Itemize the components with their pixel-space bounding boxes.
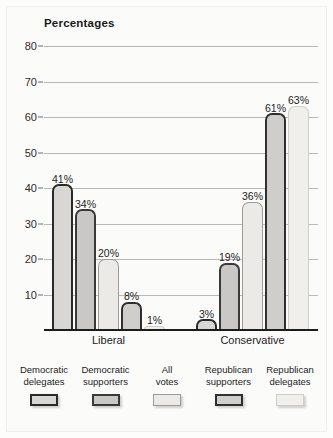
bar-value-label: 34% [75, 199, 96, 210]
legend-label: Republican [266, 364, 314, 376]
legend-label: votes [156, 376, 179, 388]
chart-figure: Percentages 1020304050607080 41%34%20%8%… [0, 0, 333, 438]
legend-swatch [30, 394, 58, 406]
y-axis-tick [38, 152, 43, 153]
bar-value-label: 19% [219, 252, 240, 263]
bar: 8% [121, 302, 142, 330]
bar: 36% [242, 202, 263, 330]
x-axis-group-label: Conservative [220, 334, 284, 346]
y-axis-tick [38, 81, 43, 82]
legend-swatch [153, 394, 181, 406]
legend-label: All [162, 364, 173, 376]
legend-label: delegates [269, 376, 310, 388]
bar-value-label: 20% [98, 248, 119, 259]
bar-value-label: 63% [288, 95, 309, 106]
legend-label: supporters [206, 376, 251, 388]
gridline [44, 82, 318, 83]
legend-item: Allvotes [137, 364, 197, 406]
x-axis-group-label: Liberal [92, 334, 125, 346]
y-axis-tick-label: 70 [25, 76, 37, 87]
legend-label: delegates [23, 376, 64, 388]
legend-label: Democratic [81, 364, 129, 376]
legend-label: supporters [83, 376, 128, 388]
bar-value-label: 3% [199, 309, 214, 320]
legend-label: Democratic [20, 364, 68, 376]
bar: 41% [52, 184, 73, 330]
legend-swatch [215, 394, 243, 406]
legend-swatch [92, 394, 120, 406]
y-axis-tick-label: 20 [25, 254, 37, 265]
y-axis-tick [38, 188, 43, 189]
y-axis-tick [38, 294, 43, 295]
y-axis-tick-label: 80 [25, 41, 37, 52]
chart-title: Percentages [44, 17, 115, 29]
legend-label: Republican [205, 364, 253, 376]
y-axis-tick-label: 30 [25, 218, 37, 229]
y-axis-tick [38, 223, 43, 224]
x-axis-line [44, 329, 318, 331]
y-axis-tick [38, 46, 43, 47]
bar-value-label: 36% [242, 191, 263, 202]
bar: 19% [219, 263, 240, 330]
legend-item: Democraticdelegates [14, 364, 74, 406]
bar: 61% [265, 113, 286, 330]
bar: 63% [288, 106, 309, 330]
bar-value-label: 8% [124, 291, 139, 302]
y-axis-tick-label: 50 [25, 147, 37, 158]
legend-item: Republicandelegates [260, 364, 320, 406]
y-axis-tick-label: 40 [25, 183, 37, 194]
chart-legend: DemocraticdelegatesDemocraticsupportersA… [14, 364, 320, 406]
bar-value-label: 41% [52, 174, 73, 185]
legend-item: Democraticsupporters [76, 364, 136, 406]
y-axis-tick-label: 60 [25, 112, 37, 123]
y-axis-tick-label: 10 [25, 289, 37, 300]
legend-item: Republicansupporters [199, 364, 259, 406]
bar-value-label: 1% [147, 315, 162, 326]
y-axis-tick [38, 259, 43, 260]
plot-area: 1020304050607080 41%34%20%8%1%3%19%36%61… [44, 46, 318, 330]
gridline [44, 46, 318, 47]
legend-swatch [276, 394, 304, 406]
bar-value-label: 61% [265, 103, 286, 114]
y-axis-tick [38, 117, 43, 118]
bar: 34% [75, 209, 96, 330]
bar: 20% [98, 259, 119, 330]
